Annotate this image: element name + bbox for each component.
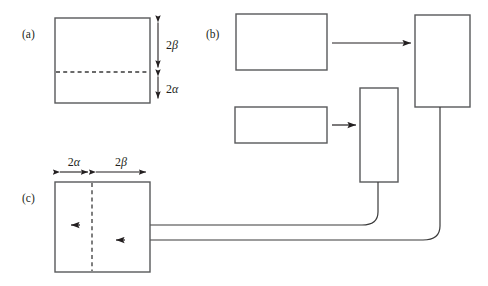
dimension-label-two-alpha: 2α <box>166 82 179 96</box>
panel-b-bottom-left-block <box>235 107 327 143</box>
panel-c: (c) 2α 2β <box>22 155 150 272</box>
dimension-label-two-beta: 2β <box>166 38 178 52</box>
dim-sym-alpha-c: α <box>74 155 81 169</box>
panel-a-label: (a) <box>22 28 35 41</box>
dimension-label-two-beta-c: 2β <box>115 155 127 169</box>
panel-b: (b) <box>206 14 470 182</box>
panel-c-box <box>55 182 150 272</box>
panel-b-top-left-block <box>236 14 327 70</box>
panel-a-box <box>55 18 150 103</box>
panel-b-label: (b) <box>206 28 220 41</box>
panel-a-dimension-two-beta: 2β <box>158 23 178 68</box>
dimension-label-two-alpha-c: 2α <box>68 155 81 169</box>
dim-sym-beta-a: β <box>171 38 178 52</box>
panel-c-dimension-two-alpha: 2α <box>60 155 88 172</box>
dim-sym-alpha-a: α <box>172 82 179 96</box>
panel-c-label: (c) <box>22 192 35 205</box>
panel-b-narrow-middle-block <box>360 88 398 182</box>
figure-root: (a) 2β 2α (b) <box>0 0 488 286</box>
block-diagram-svg: (a) 2β 2α (b) <box>0 0 488 286</box>
panel-c-dimension-two-beta: 2β <box>96 155 146 172</box>
panel-a-dimension-two-alpha: 2α <box>158 77 179 99</box>
panel-b-tall-right-block <box>415 15 470 107</box>
panel-a: (a) 2β 2α <box>22 18 179 103</box>
dim-sym-beta-c: β <box>120 155 127 169</box>
